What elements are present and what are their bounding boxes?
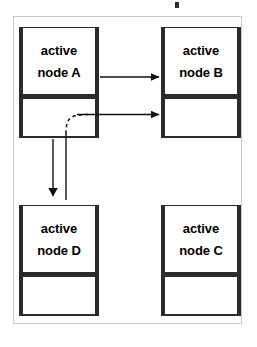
diagram-canvas: active node A active node B active node …: [0, 0, 257, 347]
node-d-label-line1: active: [41, 222, 77, 235]
node-box-c[interactable]: active node C: [161, 205, 241, 316]
node-b-upper-compartment: active node B: [165, 28, 237, 94]
node-d-upper-compartment: active node D: [23, 206, 95, 272]
node-c-label-line1: active: [183, 222, 219, 235]
node-a-lower-compartment: [23, 99, 95, 136]
node-box-a[interactable]: active node A: [19, 27, 99, 138]
node-c-upper-compartment: active node C: [165, 206, 237, 272]
node-c-label-line2: node C: [179, 244, 222, 257]
node-b-lower-compartment: [165, 99, 237, 136]
node-a-label-line2: node A: [38, 66, 81, 79]
cropped-title-mark-icon: [175, 2, 179, 8]
node-box-d[interactable]: active node D: [19, 205, 99, 316]
node-c-lower-compartment: [165, 277, 237, 314]
node-a-upper-compartment: active node A: [23, 28, 95, 94]
node-b-label-line2: node B: [179, 66, 222, 79]
node-a-label-line1: active: [41, 44, 77, 57]
node-d-label-line2: node D: [37, 244, 80, 257]
node-d-lower-compartment: [23, 277, 95, 314]
node-box-b[interactable]: active node B: [161, 27, 241, 138]
node-b-label-line1: active: [183, 44, 219, 57]
